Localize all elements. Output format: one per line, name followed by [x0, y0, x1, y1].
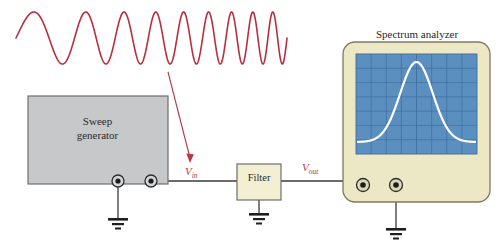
chirp-waveform-path [16, 12, 287, 64]
sweep-generator-label-line2: generator [55, 128, 140, 142]
ground-symbols-group [108, 213, 406, 240]
spectrum-analyzer-caption: Spectrum analyzer [352, 28, 482, 40]
arrow-shaft [168, 72, 190, 158]
ground-bar [256, 223, 262, 225]
analyzer-ground-terminal[interactable] [390, 179, 403, 192]
ground-bar [386, 228, 406, 231]
sweep-generator-output-terminal[interactable] [145, 175, 157, 187]
v-out-subscript: out [309, 167, 319, 176]
terminal-center [360, 182, 366, 188]
ground-bar [115, 228, 121, 230]
figure-canvas: Sweep generator Filter Spectrum analyzer… [0, 0, 501, 250]
ground-bar [393, 238, 399, 240]
spectrum-analyzer[interactable] [343, 42, 490, 202]
filter-label: Filter [238, 172, 280, 183]
sweep-generator-label-line1: Sweep [55, 114, 140, 128]
ground-bar [112, 223, 124, 225]
terminal-center [115, 178, 120, 183]
sweep-generator-ground-terminal[interactable] [112, 175, 124, 187]
chirp-waveform-group [16, 12, 287, 64]
ground-bar [249, 213, 269, 216]
v-out-symbol: V [302, 161, 309, 173]
v-in-subscript: in [192, 171, 198, 180]
ground-bar [390, 233, 402, 235]
arrow-head-icon [186, 154, 194, 163]
analyzer-input-terminal[interactable] [357, 179, 370, 192]
v-in-label: Vin [185, 165, 198, 180]
v-in-symbol: V [185, 165, 192, 177]
ground-bar [108, 218, 128, 221]
v-out-label: Vout [302, 161, 318, 176]
ground-bar [253, 218, 265, 220]
filter-ground [249, 213, 269, 225]
chirp-to-vin-arrow [168, 72, 194, 163]
terminal-center [393, 182, 399, 188]
sweep-generator-ground [108, 218, 128, 230]
spectrum-analyzer-ground [386, 228, 406, 240]
sweep-generator-label: Sweep generator [55, 114, 140, 142]
terminal-center [148, 178, 153, 183]
